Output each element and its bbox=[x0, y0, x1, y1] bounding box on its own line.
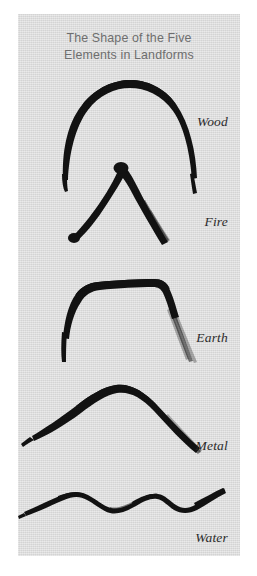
brush-stroke-metal bbox=[21, 385, 202, 454]
element-label-fire: Fire bbox=[204, 214, 228, 230]
element-label-earth: Earth bbox=[196, 330, 228, 346]
figure-panel: The Shape of the Five Elements in Landfo… bbox=[18, 14, 240, 556]
element-label-wood: Wood bbox=[197, 114, 228, 130]
element-label-water: Water bbox=[195, 530, 228, 546]
element-label-metal: Metal bbox=[196, 438, 229, 454]
brush-stroke-earth bbox=[61, 279, 197, 363]
brush-stroke-fire bbox=[68, 162, 170, 245]
brush-stroke-water bbox=[18, 488, 226, 519]
brush-strokes-layer bbox=[18, 14, 240, 556]
